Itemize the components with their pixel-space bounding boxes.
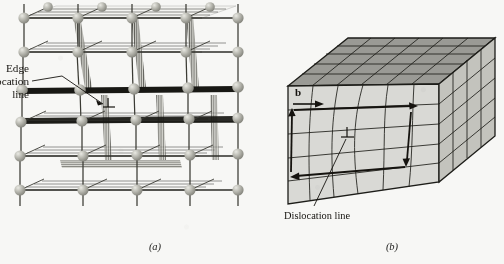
panel-b-continuum-block: b Dislocation line (b) (252, 0, 504, 264)
figure-root: Edge dislocation line (a) (0, 0, 504, 264)
dislocation-line-label: Dislocation line (284, 210, 350, 221)
edge-dislocation-label-line1: Edge (6, 62, 29, 74)
panel-a-svg: Edge dislocation line (a) (0, 0, 252, 264)
edge-dislocation-leader-line (32, 76, 62, 81)
edge-dislocation-label: Edge dislocation line (0, 62, 115, 107)
panel-b-caption: (b) (386, 241, 399, 253)
panel-a-caption: (a) (149, 241, 162, 253)
block-front-face (288, 84, 439, 204)
panel-b-svg: b Dislocation line (b) (252, 0, 504, 264)
burgers-vector-label: b (295, 86, 301, 98)
burgers-circuit-left (291, 114, 292, 172)
lattice-vertical-bonds (20, 4, 238, 206)
edge-dislocation-label-line3: line (12, 88, 29, 100)
panel-a-atomic-lattice: Edge dislocation line (a) (0, 0, 252, 264)
edge-dislocation-label-line2: dislocation (0, 75, 29, 87)
